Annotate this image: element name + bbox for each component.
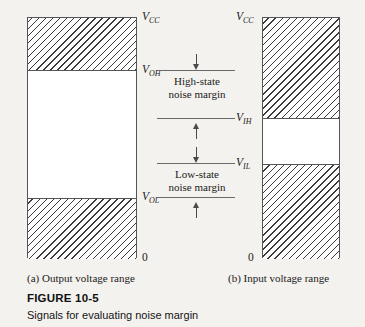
low-margin-upper-rule: [157, 163, 235, 164]
label-vol: VOL: [142, 191, 159, 205]
high-margin-arrow-up-shaft: [196, 128, 197, 139]
high-state-noise-margin-line1: High-state: [174, 75, 220, 87]
label-vih-subscript: IH: [243, 117, 251, 126]
high-state-noise-margin-line2: noise margin: [169, 88, 226, 100]
low-state-noise-margin-line1: Low-state: [175, 168, 219, 180]
high-margin-lower-rule: [157, 118, 235, 119]
high-margin-upper-rule: [157, 70, 235, 71]
high-state-noise-margin-label: High-state noise margin: [152, 75, 242, 100]
label-vcc-output: VCC: [142, 11, 160, 25]
label-vih: VIH: [236, 112, 251, 126]
label-vcc-output-subscript: CC: [149, 16, 160, 25]
figure-number: FIGURE 10-5: [27, 292, 99, 304]
low-state-noise-margin-label: Low-state noise margin: [152, 168, 242, 193]
figure-10-5: VCC VOH VOL 0 High-state noise margin Lo…: [0, 0, 365, 327]
figure-caption: Signals for evaluating noise margin: [27, 309, 198, 321]
label-zero-output: 0: [142, 252, 148, 264]
panel-b-sub-caption: (b) Input voltage range: [228, 272, 329, 284]
input-voltage-range-box: [262, 17, 340, 258]
output-voltage-range-box: [27, 17, 137, 258]
output-high-hatched-band: [28, 18, 136, 71]
low-margin-lower-rule: [157, 197, 235, 198]
label-vcc-input: VCC: [236, 11, 254, 25]
label-vil: VIL: [236, 157, 250, 171]
input-high-hatched-band: [263, 18, 339, 119]
label-vil-subscript: IL: [243, 162, 250, 171]
output-low-hatched-band: [28, 198, 136, 259]
low-margin-arrow-up-shaft: [196, 207, 197, 218]
input-low-hatched-band: [263, 164, 339, 259]
panel-a-sub-caption: (a) Output voltage range: [27, 272, 135, 284]
label-zero-input: 0: [248, 252, 254, 264]
label-vcc-input-subscript: CC: [243, 16, 254, 25]
low-state-noise-margin-line2: noise margin: [169, 181, 226, 193]
